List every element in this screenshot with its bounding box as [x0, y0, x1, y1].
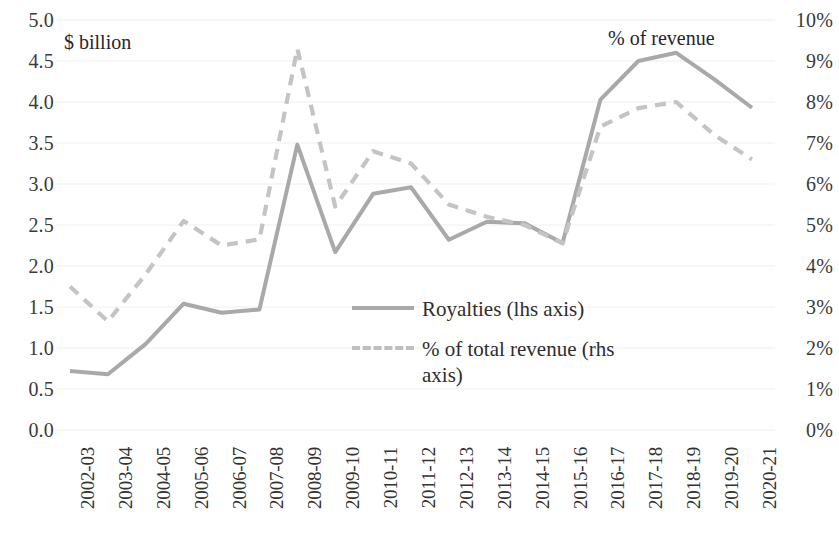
- legend-item-label: Royalties (lhs axis): [422, 296, 584, 322]
- right-axis-tick: 3%: [771, 297, 833, 317]
- right-axis-unit-label: % of revenue: [608, 28, 715, 48]
- left-axis-unit-label: $ billion: [64, 32, 131, 52]
- x-axis-tick: 2019-20: [722, 447, 741, 509]
- left-axis-tick: 1.0: [6, 338, 54, 358]
- x-axis-tick: 2016-17: [608, 447, 627, 509]
- x-axis-tick: 2013-14: [495, 447, 514, 509]
- x-axis-tick: 2007-08: [267, 447, 286, 509]
- right-axis-tick: 8%: [771, 92, 833, 112]
- left-axis-tick: 4.0: [6, 92, 54, 112]
- x-axis-tick: 2006-07: [230, 447, 249, 509]
- legend-item-label: % of total revenue (rhs axis): [422, 336, 654, 388]
- right-axis-tick: 1%: [771, 379, 833, 399]
- x-axis-tick: 2009-10: [343, 447, 362, 509]
- left-axis-tick: 0.5: [6, 379, 54, 399]
- legend-item-royalties: Royalties (lhs axis): [352, 296, 682, 322]
- left-axis-tick: 5.0: [6, 10, 54, 30]
- x-axis-tick: 2014-15: [533, 447, 552, 509]
- x-axis-tick: 2005-06: [192, 447, 211, 509]
- x-axis-tick: 2002-03: [78, 447, 97, 509]
- right-axis-tick: 7%: [771, 133, 833, 153]
- right-axis-tick: 2%: [771, 338, 833, 358]
- left-axis-tick: 1.5: [6, 297, 54, 317]
- x-axis-tick: 2020-21: [760, 447, 779, 509]
- legend-item-percent-of-revenue: % of total revenue (rhs axis): [352, 336, 682, 388]
- royalties-line-chart: $ billion % of revenue 0.00.51.01.52.02.…: [0, 0, 839, 539]
- x-axis-tick: 2008-09: [305, 447, 324, 509]
- chart-legend: Royalties (lhs axis) % of total revenue …: [352, 296, 682, 402]
- right-axis-tick: 9%: [771, 51, 833, 71]
- right-axis-tick: 0%: [771, 420, 833, 440]
- x-axis-tick: 2011-12: [419, 447, 438, 508]
- right-axis-tick: 6%: [771, 174, 833, 194]
- left-axis-tick: 4.5: [6, 51, 54, 71]
- x-axis-tick: 2012-13: [457, 447, 476, 509]
- left-axis-tick: 2.0: [6, 256, 54, 276]
- left-axis-tick: 2.5: [6, 215, 54, 235]
- x-axis-tick: 2003-04: [116, 447, 135, 509]
- legend-solid-line-icon: [352, 296, 414, 318]
- left-axis-tick: 3.0: [6, 174, 54, 194]
- left-axis-tick: 3.5: [6, 133, 54, 153]
- x-axis-tick: 2010-11: [381, 447, 400, 508]
- right-axis-tick: 10%: [771, 10, 833, 30]
- x-axis-tick: 2017-18: [646, 447, 665, 509]
- right-axis-tick: 5%: [771, 215, 833, 235]
- x-axis-tick: 2004-05: [154, 447, 173, 509]
- left-axis-tick: 0.0: [6, 420, 54, 440]
- right-axis-tick: 4%: [771, 256, 833, 276]
- x-axis-tick: 2015-16: [571, 447, 590, 509]
- legend-dashed-line-icon: [352, 336, 414, 358]
- x-axis-tick: 2018-19: [684, 447, 703, 509]
